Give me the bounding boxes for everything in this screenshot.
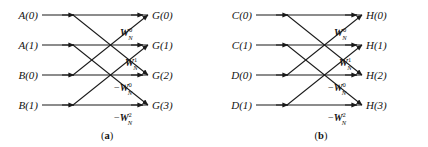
- output-label-2: G(2): [152, 70, 173, 81]
- twiddle-label-3: −W2N: [328, 113, 350, 123]
- twiddle-label-0: W0N: [334, 28, 351, 38]
- twiddle-label-2: −W0N: [328, 83, 350, 93]
- output-label-1: H(1): [366, 40, 387, 51]
- figure-root: A(0) A(1) B(0) B(1) G(0) G(1) G(2) G(3) …: [0, 0, 428, 147]
- twiddle-label-3: −W2N: [114, 113, 136, 123]
- input-label-3: D(1): [231, 100, 252, 111]
- output-label-3: H(3): [366, 100, 387, 111]
- input-label-1: C(1): [232, 40, 252, 51]
- output-label-0: G(0): [152, 10, 173, 21]
- signal-flow-diagram-b: C(0) C(1) D(0) D(1) H(0) H(1) H(2) H(3) …: [214, 0, 428, 147]
- output-label-1: G(1): [152, 40, 173, 51]
- output-label-3: G(3): [152, 100, 173, 111]
- input-label-2: D(0): [231, 70, 252, 81]
- output-label-2: H(2): [366, 70, 387, 81]
- signal-flow-diagram-a: A(0) A(1) B(0) B(1) G(0) G(1) G(2) G(3) …: [0, 0, 214, 147]
- twiddle-label-1: W1N: [125, 58, 142, 68]
- output-label-0: H(0): [366, 10, 387, 21]
- input-label-1: A(1): [18, 40, 38, 51]
- input-label-0: C(0): [232, 10, 252, 21]
- input-label-3: B(1): [18, 100, 38, 111]
- caption-a: (a): [0, 130, 214, 141]
- input-label-0: A(0): [18, 10, 38, 21]
- twiddle-label-0: W0N: [120, 28, 137, 38]
- input-label-2: B(0): [18, 70, 38, 81]
- twiddle-label-1: W1N: [339, 58, 356, 68]
- twiddle-label-2: −W0N: [114, 83, 136, 93]
- caption-b: (b): [214, 130, 428, 141]
